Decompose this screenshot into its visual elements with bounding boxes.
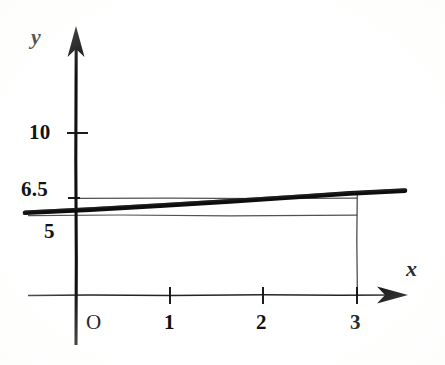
- coordinate-plot: [0, 0, 445, 365]
- y-tick-label-5: 5: [44, 221, 55, 242]
- tick-marks: [67, 133, 357, 304]
- data-line-group: [25, 189, 405, 212]
- y-tick-label-10: 10: [29, 122, 51, 143]
- x-axis-line: [28, 295, 392, 296]
- main-data-line-bleed: [25, 189, 405, 211]
- drop-line-x3: [357, 193, 358, 296]
- x-axis-label: x: [406, 258, 417, 280]
- y-tick-label-6-5: 6.5: [21, 179, 48, 200]
- graph-figure: y x 10 6.5 5 O 1 2 3: [0, 0, 445, 365]
- origin-label: O: [86, 312, 101, 333]
- axis-lines: [28, 26, 408, 345]
- main-data-line: [25, 191, 405, 213]
- y-axis-line: [76, 44, 77, 345]
- x-tick-label-1: 1: [164, 312, 175, 333]
- y-axis-label: y: [31, 26, 41, 48]
- x-tick-label-2: 2: [256, 312, 267, 333]
- x-tick-label-3: 3: [350, 312, 361, 333]
